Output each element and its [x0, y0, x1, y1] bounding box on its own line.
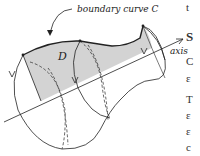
orientation-arrow-left-icon: [9, 71, 15, 77]
side-text-c2: c: [186, 142, 191, 153]
side-text-e2: ε: [186, 110, 191, 121]
boundary-label: boundary curve C: [77, 4, 159, 14]
vertex-point: [142, 25, 145, 28]
side-text-e3: ε: [186, 126, 191, 137]
side-text-t2: T: [186, 94, 193, 105]
region-label: D: [57, 50, 67, 63]
side-text-c: C: [186, 56, 193, 67]
side-text-t: t: [186, 2, 189, 13]
pointer-arrowhead-icon: [47, 30, 53, 36]
surface-of-revolution-diagram: boundary curve C D axis: [0, 0, 200, 156]
vertex-point: [79, 40, 82, 43]
side-text-e1: ε: [186, 73, 191, 84]
pointer-arrow: [50, 9, 72, 33]
vertex-point: [22, 54, 25, 57]
shaded-region-d: [23, 26, 152, 101]
side-text-s: S: [186, 30, 193, 43]
